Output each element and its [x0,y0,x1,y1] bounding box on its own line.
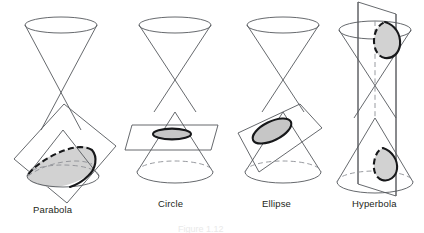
ellipse-upper-rim [247,17,319,33]
ellipse-upper-right-generator [262,25,319,112]
label-circle: Circle [158,198,183,209]
hyperbola-lower-base-front [337,182,413,193]
parabola-upper-rim [25,17,97,33]
label-hyperbola: Hyperbola [352,198,397,209]
hyperbola-lower-left-generator [337,118,375,182]
panel-parabola [14,17,116,203]
panel-circle [125,17,218,183]
ellipse-lower-base-front [245,172,321,183]
conic-sections-figure: Parabola Circle Ellipse Hyperbola Figure… [0,0,424,233]
label-ellipse: Ellipse [262,198,291,209]
circle-upper-left-generator [139,25,196,112]
circle-upper-rim [139,17,211,33]
circle-lower-left-generator [137,112,175,172]
panel-ellipse [238,17,322,183]
panel-hyperbola [337,2,413,196]
parabola-upper-right-generator [41,25,97,130]
circle-lower-base-front [137,172,213,183]
ellipse-upper-left-generator [247,25,304,112]
label-parabola: Parabola [33,204,72,215]
circle-upper-right-generator [154,25,211,112]
parabola-upper-left-generator [25,25,81,130]
figure-caption: Figure 1.12 [178,224,224,233]
circle-lower-base-back [137,161,213,172]
circle-lower-right-generator [175,112,213,172]
